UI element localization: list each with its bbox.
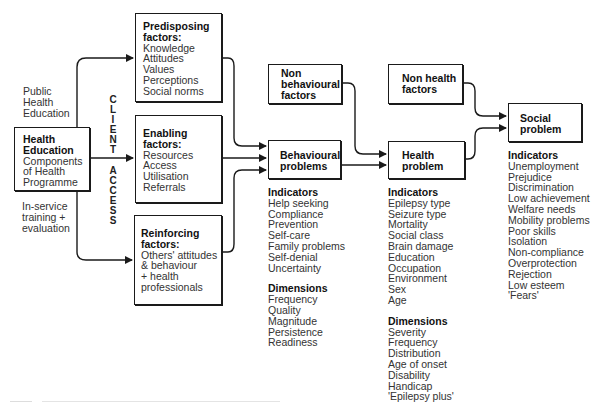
indicator-item: Epilepsy type xyxy=(388,198,454,209)
dimension-item: Readiness xyxy=(268,337,345,348)
client-label: C L I E N T xyxy=(108,95,118,155)
indicator-item: Self-denial xyxy=(268,252,345,263)
box-title: factors xyxy=(402,84,462,95)
behavioural-indicators: Indicators Help seeking Compliance Preve… xyxy=(268,187,345,348)
indicator-item: Uncertainty xyxy=(268,263,345,274)
access-label: A C C E S S xyxy=(108,166,118,226)
factor-item: Social norms xyxy=(143,86,221,97)
dimension-item: 'Epilepsy plus' xyxy=(388,391,454,402)
health-problem-box: Health problem xyxy=(388,141,465,179)
box-title: behavioural xyxy=(281,79,341,90)
section-heading: Dimensions xyxy=(388,316,454,327)
indicator-item: 'Fears' xyxy=(508,290,590,301)
social-problem-box: Social problem xyxy=(508,103,582,142)
public-health-education-label: Public Health Education xyxy=(23,86,70,119)
non-health-factors-box: Non health factors xyxy=(388,64,463,104)
box-text: Programme xyxy=(23,177,89,188)
behavioural-problems-box: Behavioural problems xyxy=(268,140,341,179)
health-education-box: Health Education Components of Health Pr… xyxy=(14,127,90,191)
social-indicators: Indicators Unemployment Prejudice Discri… xyxy=(508,150,590,301)
indicator-item: Age xyxy=(388,295,454,306)
box-title: problem xyxy=(520,124,581,135)
factor-item: Referrals xyxy=(143,182,221,193)
box-title: factors: xyxy=(143,32,221,43)
indicator-item: Education xyxy=(388,252,454,263)
cropped-caption xyxy=(10,401,280,402)
indicator-item: Help seeking xyxy=(268,198,345,209)
predisposing-factors-box: Predisposing factors: Knowledge Attitude… xyxy=(135,13,222,102)
dimension-item: Magnitude xyxy=(268,316,345,327)
box-title: factors: xyxy=(141,239,221,250)
box-title: problems xyxy=(280,161,340,172)
label-line: evaluation xyxy=(22,223,70,234)
box-title: Education xyxy=(23,145,89,156)
label-line: Education xyxy=(23,108,70,119)
letter: S xyxy=(108,216,118,226)
indicator-item: Rejection xyxy=(508,269,590,280)
indicator-item: Unemployment xyxy=(508,161,590,172)
dimension-item: Disability xyxy=(388,370,454,381)
enabling-factors-box: Enabling factors: Resources Access Utili… xyxy=(135,115,222,203)
in-service-training-label: In-service training + evaluation xyxy=(22,201,70,234)
indicator-item: Mobility problems xyxy=(508,215,590,226)
letter: T xyxy=(108,145,118,155)
box-title: problem xyxy=(402,161,464,172)
reinforcing-factors-box: Reinforcing factors: Others' attitudes &… xyxy=(134,215,222,305)
non-behavioural-factors-box: Non behavioural factors xyxy=(268,64,342,104)
box-title: factors xyxy=(281,90,341,101)
box-title: factors: xyxy=(143,139,221,150)
health-indicators: Indicators Epilepsy type Seizure type Mo… xyxy=(388,187,454,402)
factor-item: professionals xyxy=(141,282,221,293)
